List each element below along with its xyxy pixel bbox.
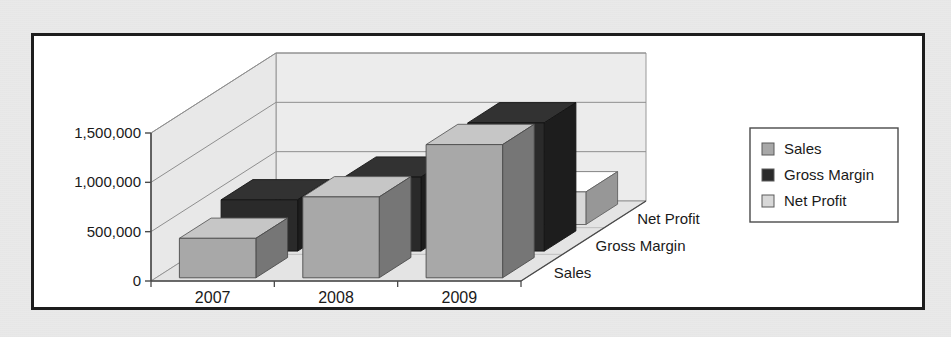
y-axis-labels: 0500,0001,000,0001,500,000	[74, 124, 141, 289]
bar-front	[303, 197, 379, 278]
x-axis-category-label: 2007	[195, 289, 231, 306]
legend-item-label: Net Profit	[784, 192, 847, 209]
y-axis-tick-label: 1,000,000	[74, 173, 141, 190]
z-axis-depth-label: Sales	[554, 264, 592, 281]
bar-side	[544, 103, 576, 252]
legend-item-label: Sales	[784, 140, 822, 157]
x-axis-category-label: 2008	[318, 289, 354, 306]
x-axis-labels: 200720082009	[195, 289, 477, 306]
chart-legend[interactable]: SalesGross MarginNet Profit	[750, 128, 898, 222]
legend-item-sales[interactable]: Sales	[762, 140, 822, 157]
screenshot-root: 0500,0001,000,0001,500,000 200720082009 …	[0, 0, 951, 337]
z-axis-depth-label: Net Profit	[637, 210, 700, 227]
legend-swatch-icon	[762, 143, 774, 155]
bar-chart-3d[interactable]: 0500,0001,000,0001,500,000 200720082009 …	[34, 36, 922, 307]
y-axis-tick-label: 500,000	[87, 223, 141, 240]
legend-item-label: Gross Margin	[784, 166, 874, 183]
y-axis-tick-label: 1,500,000	[74, 124, 141, 141]
y-axis-tick-label: 0	[133, 272, 141, 289]
legend-swatch-icon	[762, 195, 774, 207]
z-axis-depth-label: Gross Margin	[596, 237, 686, 254]
bar-sales-2009[interactable]	[426, 124, 534, 278]
bar-front	[426, 145, 503, 278]
chart-frame[interactable]: 0500,0001,000,0001,500,000 200720082009 …	[31, 33, 925, 310]
bar-side	[503, 124, 535, 277]
bar-sales-2008[interactable]	[303, 177, 411, 278]
legend-swatch-icon	[762, 169, 774, 181]
x-axis-category-label: 2009	[442, 289, 478, 306]
bar-front	[179, 238, 256, 277]
